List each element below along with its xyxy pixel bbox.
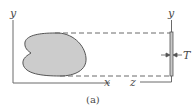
cross-section-diagram: y x y z T (a) — [0, 0, 195, 110]
figure-caption: (a) — [86, 94, 100, 105]
z-axis-label: z — [129, 76, 136, 89]
side-view-axes — [140, 20, 172, 82]
cross-section-shape — [23, 33, 86, 76]
x-axis-label: x — [104, 76, 111, 89]
arrowhead-left-icon — [166, 53, 170, 57]
thickness-label: T — [183, 49, 192, 62]
y-axis-right-label: y — [167, 7, 175, 20]
arrowhead-right-icon — [173, 53, 177, 57]
y-axis-left-label: y — [9, 7, 17, 20]
plate-side-view — [170, 32, 173, 76]
